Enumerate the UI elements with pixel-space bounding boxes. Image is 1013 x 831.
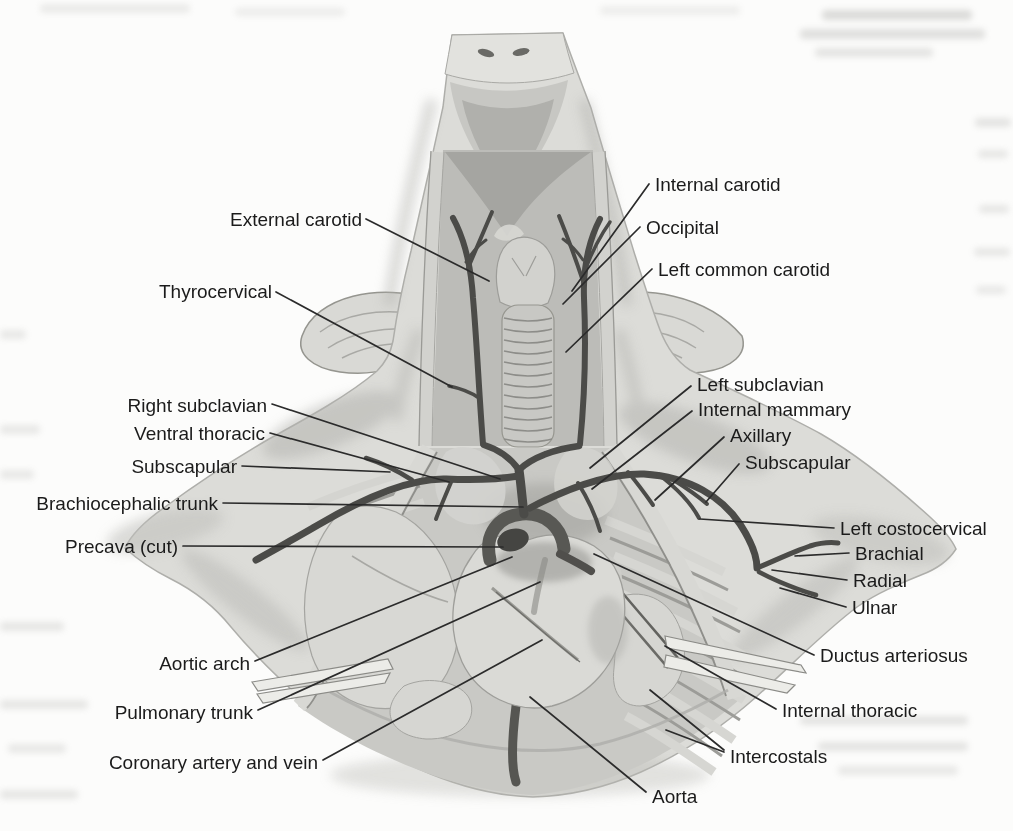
label-intercostals: Intercostals [730, 746, 827, 767]
label-brachiocephalic-trunk: Brachiocephalic trunk [36, 493, 218, 514]
label-left-common-carotid: Left common carotid [658, 259, 830, 280]
label-external-carotid: External carotid [230, 209, 362, 230]
leader-precava-cut [183, 546, 503, 547]
label-aorta: Aorta [652, 786, 698, 807]
textbook-page: External carotidThyrocervicalRight subcl… [0, 0, 1013, 831]
label-aortic-arch: Aortic arch [159, 653, 250, 674]
larynx [496, 237, 554, 308]
label-left-subclavian: Left subclavian [697, 374, 824, 395]
label-ventral-thoracic: Ventral thoracic [134, 423, 265, 444]
label-brachial: Brachial [855, 543, 924, 564]
label-subscapular-left: Subscapular [131, 456, 237, 477]
label-internal-thoracic: Internal thoracic [782, 700, 917, 721]
label-axillary: Axillary [730, 425, 792, 446]
label-left-costocervical: Left costocervical [840, 518, 987, 539]
label-ulnar: Ulnar [852, 597, 898, 618]
snout-plate [445, 33, 574, 83]
left-lung-lower-lobe [390, 681, 472, 740]
label-internal-carotid: Internal carotid [655, 174, 781, 195]
heart-side-shadow [588, 596, 628, 664]
label-pulmonary-trunk: Pulmonary trunk [115, 702, 254, 723]
label-ductus-arteriosus: Ductus arteriosus [820, 645, 968, 666]
label-right-subclavian: Right subclavian [128, 395, 267, 416]
pig-artery-diagram: External carotidThyrocervicalRight subcl… [0, 0, 1013, 831]
label-subscapular-right: Subscapular [745, 452, 851, 473]
label-precava-cut: Precava (cut) [65, 536, 178, 557]
label-thyrocervical: Thyrocervical [159, 281, 272, 302]
label-coronary-artery-vein: Coronary artery and vein [109, 752, 318, 773]
neck-dissection [419, 150, 617, 447]
label-radial: Radial [853, 570, 907, 591]
label-internal-mammary: Internal mammary [698, 399, 852, 420]
label-occipital: Occipital [646, 217, 719, 238]
